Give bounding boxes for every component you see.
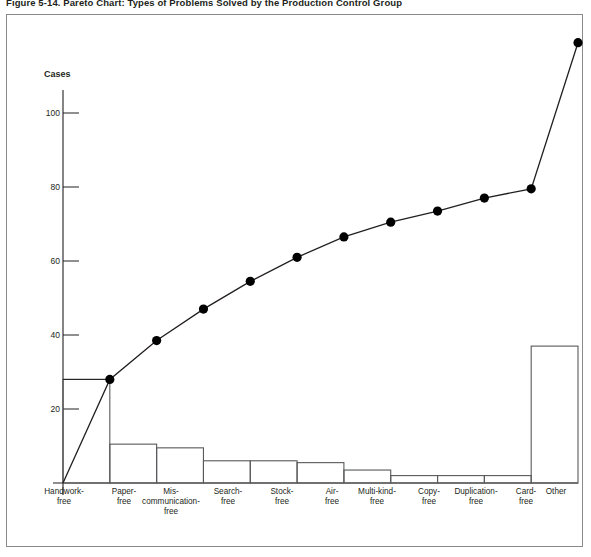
cat-line: Other — [530, 487, 582, 497]
y-tick-label-80: 80 — [30, 182, 60, 192]
figure-title: Figure 5-14. Pareto Chart: Types of Prob… — [6, 0, 402, 8]
y-tick-label-60: 60 — [30, 256, 60, 266]
x-category-label-handwork-free: Handwork- free — [28, 487, 100, 507]
cat-line: Handwork- — [28, 487, 100, 497]
x-category-label-search-free: Search- free — [198, 487, 258, 507]
y-tick-label-40: 40 — [30, 330, 60, 340]
x-category-label-stock-free: Stock- free — [252, 487, 312, 507]
y-tick-label-100: 100 — [30, 108, 60, 118]
cat-line: free — [28, 497, 100, 507]
y-axis-title: Cases — [44, 69, 71, 79]
x-category-label-other: Other — [530, 487, 582, 497]
y-tick-label-20: 20 — [30, 404, 60, 414]
cat-line: free — [198, 497, 258, 507]
cat-line: Search- — [198, 487, 258, 497]
chart-frame — [6, 14, 583, 547]
cat-line: free — [132, 507, 210, 517]
cat-line: free — [500, 497, 552, 507]
cat-line: Stock- — [252, 487, 312, 497]
cat-line: free — [252, 497, 312, 507]
